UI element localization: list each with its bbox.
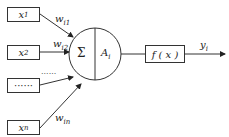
weight-label-win: win [55,113,70,127]
transfer-function-box: f ( x ) [145,45,185,63]
sum-symbol: Σ [77,48,85,58]
weight-label-wi2: wi2 [53,39,68,53]
weight-label-ellipsis: ······ [41,69,56,79]
input-box-ellipsis: ······ [7,78,40,93]
weight-label-wi1: wi1 [55,14,70,28]
input-box-x2: x2 [7,45,40,60]
input-box-x1: x1 [7,7,40,22]
output-label: yi [200,40,208,54]
activation-label: Ai [101,48,110,62]
neuron-diagram: x1 x2 ······ xn wi1 wi2 ······ win Σ Ai … [0,0,229,137]
input-box-xn: xn [7,120,40,135]
